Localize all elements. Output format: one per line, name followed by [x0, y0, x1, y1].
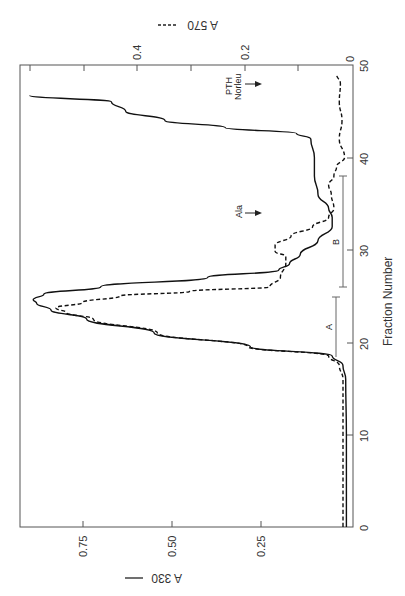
a570-tick-0: 0: [344, 56, 356, 62]
a570-ticks: [30, 65, 298, 71]
a570-tick-0.4: 0.4: [131, 45, 143, 60]
a330-ticks: [83, 521, 261, 527]
a570-title-text: A 570: [187, 18, 218, 32]
a570-axis-title: A 570: [156, 18, 218, 32]
fraction-tick-20: 20: [358, 338, 370, 350]
a330-tick-0.50: 0.50: [166, 536, 178, 557]
fraction-tick-40: 40: [358, 153, 370, 165]
a570-dashed-line: [56, 74, 345, 527]
a330-tick-0.75: 0.75: [77, 536, 89, 557]
chromatography-chart: 0.4 0.2 0 A 570 0.75 0.50 0.25 A 330 0 1…: [0, 0, 405, 596]
fraction-axis-title: Fraction Number: [381, 257, 395, 346]
pth-arrow-icon: [245, 81, 262, 87]
a570-tick-0.2: 0.2: [239, 45, 251, 60]
fraction-tick-30: 30: [358, 245, 370, 257]
range-bar-b: [339, 176, 347, 287]
range-a-label: A: [324, 324, 334, 330]
range-b-label: B: [331, 239, 341, 245]
fraction-tick-10: 10: [358, 430, 370, 442]
fraction-tick-50: 50: [358, 60, 370, 72]
ala-label: Ala: [234, 205, 244, 218]
fraction-ticks: [347, 158, 353, 435]
plot-frame: [20, 65, 353, 527]
a330-axis-title: A 330: [125, 571, 182, 585]
ala-arrow-icon: [245, 210, 262, 216]
a330-solid-line: [30, 96, 347, 528]
a330-tick-0.25: 0.25: [255, 536, 267, 557]
fraction-tick-0: 0: [358, 525, 370, 531]
a330-title-text: A 330: [151, 571, 182, 585]
norleu-label: Norleu: [233, 73, 243, 100]
